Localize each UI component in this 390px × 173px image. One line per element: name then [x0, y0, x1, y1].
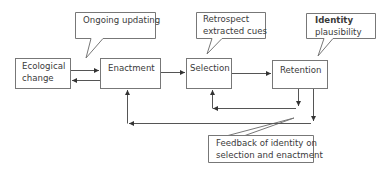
selection-label: Selection	[190, 62, 230, 74]
ongoing-updating-label: Ongoing updating	[83, 14, 160, 26]
ecological-change-label-1: Ecological	[22, 60, 65, 72]
retrospect-label-2: extracted cues	[203, 25, 267, 37]
identity-label-bold: Identity	[315, 14, 353, 26]
retrospect-label-1: Retrospect	[203, 13, 249, 25]
feedback-label-2: selection and enactment	[216, 149, 323, 161]
enactment-label: Enactment	[108, 62, 155, 74]
ecological-change-label-2: change	[22, 72, 54, 84]
retention-label: Retention	[280, 64, 321, 76]
identity-label-2: plausibility	[315, 26, 362, 38]
feedback-label-1: Feedback of identity on	[216, 137, 317, 149]
